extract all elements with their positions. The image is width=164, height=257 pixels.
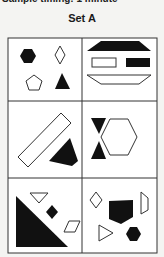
filled-rectangle-icon <box>126 58 150 67</box>
shape-grid <box>0 0 164 257</box>
